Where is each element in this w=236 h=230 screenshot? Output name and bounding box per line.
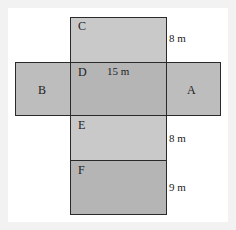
dimension-f-height: 9 m	[169, 181, 186, 193]
label-a: A	[187, 83, 196, 98]
dimension-d-width: 15 m	[107, 65, 129, 77]
dimension-c-height: 8 m	[169, 32, 186, 44]
dimension-e-height: 8 m	[169, 132, 186, 144]
label-c: C	[78, 19, 86, 34]
label-e: E	[78, 118, 85, 133]
label-f: F	[78, 163, 85, 178]
label-d: D	[78, 65, 87, 80]
label-b: B	[38, 83, 46, 98]
